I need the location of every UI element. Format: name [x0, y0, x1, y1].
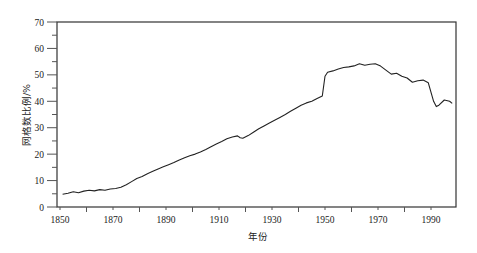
y-tick-label: 50 — [35, 70, 45, 80]
y-axis-title-group: 网格数比例/% — [21, 84, 32, 146]
y-tick-label: 40 — [35, 97, 45, 107]
x-tick-label: 1990 — [422, 215, 441, 225]
data-line — [63, 64, 453, 195]
x-tick-label: 1930 — [263, 215, 282, 225]
x-tick-label: 1850 — [51, 215, 70, 225]
plot-frame — [57, 22, 456, 207]
y-tick-label: 0 — [39, 203, 44, 213]
x-tick-label: 1890 — [157, 215, 176, 225]
plot-area: 0102030405060701850187018901910193019501… — [35, 18, 457, 226]
x-tick-label: 1950 — [316, 215, 335, 225]
y-tick-label: 60 — [35, 44, 45, 54]
y-tick-label: 20 — [35, 150, 45, 160]
x-tick-label: 1970 — [369, 215, 388, 225]
y-tick-label: 10 — [35, 176, 45, 186]
x-tick-label: 1910 — [210, 215, 229, 225]
y-tick-label: 30 — [35, 123, 45, 133]
x-axis-title: 年份 — [248, 231, 268, 242]
line-chart: 网格数比例/% 年份 01020304050607018501870189019… — [0, 0, 477, 253]
y-axis-title: 网格数比例/% — [21, 84, 32, 146]
x-tick-label: 1870 — [104, 215, 123, 225]
y-tick-label: 70 — [35, 18, 45, 28]
